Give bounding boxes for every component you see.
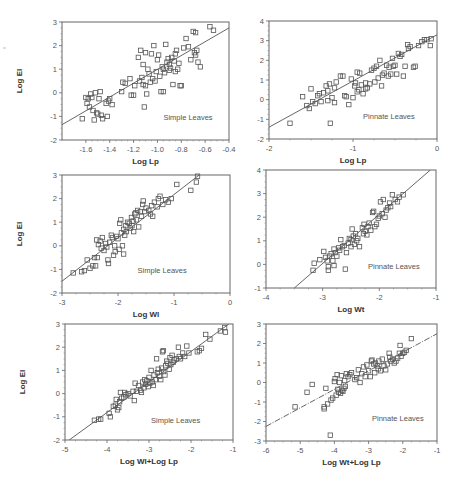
y-tick-label: 3 <box>53 171 57 180</box>
data-point-square <box>194 180 198 184</box>
figure-panel-grid: -1.6-1.4-1.2-1.0-0.8-0.6-0.4-2-10123Simp… <box>0 0 456 482</box>
data-point-square <box>128 76 132 80</box>
x-tick-label: -2 <box>188 445 195 454</box>
data-point-square <box>378 58 382 62</box>
scatter-panel-6: -6-5-4-3-2-1-3-2-10123Pinnate LeavesLog … <box>254 320 440 468</box>
data-point-square <box>379 84 383 88</box>
x-tick-label: -5 <box>297 446 304 455</box>
y-axis-label: Log EI <box>15 222 24 246</box>
data-point-square <box>185 344 189 348</box>
x-tick-label: -1.2 <box>127 145 140 154</box>
data-point-square <box>138 209 142 213</box>
data-point-square <box>332 86 336 90</box>
data-point-square <box>403 64 407 68</box>
data-point-square <box>398 343 402 347</box>
data-point-square <box>156 53 160 57</box>
data-point-square <box>223 330 227 334</box>
x-axis-label: Log Wl+Log Lp <box>120 457 178 466</box>
data-point-square <box>368 374 372 378</box>
y-tick-label: -3 <box>254 437 261 446</box>
data-point-square <box>184 36 188 40</box>
data-point-square <box>133 84 137 88</box>
data-point-square <box>310 382 314 386</box>
x-axis-label: Log Wt+Log Lp <box>322 458 381 467</box>
x-tick-label: -2 <box>399 446 406 455</box>
y-tick-label: -2 <box>50 136 57 145</box>
data-point-square <box>179 84 183 88</box>
panel-annotation: Simple Leaves <box>138 266 187 275</box>
data-point-square <box>143 50 147 54</box>
data-point-square <box>152 43 156 47</box>
y-tick-label: 1 <box>260 76 264 85</box>
data-point-square <box>339 237 343 241</box>
y-tick-label: -2 <box>254 417 261 426</box>
panel-annotation: Pinnate Leaves <box>363 112 415 121</box>
data-point-square <box>175 182 179 186</box>
panel-annotation: Pinnate Leaves <box>372 414 424 423</box>
data-point-square <box>142 105 146 109</box>
data-point-square <box>144 92 148 96</box>
x-tick-label: -1 <box>350 144 357 153</box>
data-point-square <box>288 121 292 125</box>
data-point-square <box>322 249 326 253</box>
y-tick-label: 2 <box>53 41 57 50</box>
data-point-square <box>149 52 153 56</box>
y-tick-label: 2 <box>257 213 261 222</box>
data-point-square <box>198 65 202 69</box>
y-tick-label: 1 <box>56 366 60 375</box>
x-tick-label: -2 <box>376 293 383 302</box>
y-tick-label: -1 <box>257 115 264 124</box>
y-tick-label: 1 <box>257 236 261 245</box>
data-point-square <box>324 386 328 390</box>
data-point-square <box>337 380 341 384</box>
data-point-square <box>357 245 361 249</box>
data-point-square <box>318 257 322 261</box>
x-axis-label: Log Wt <box>337 305 364 314</box>
x-tick-label: -1.6 <box>79 145 92 154</box>
data-point-square <box>189 58 193 62</box>
x-tick-label: 0 <box>228 298 232 307</box>
x-tick-label: -4 <box>263 293 270 302</box>
y-tick-label: 3 <box>260 36 264 45</box>
x-tick-label: -1 <box>171 298 178 307</box>
data-point-square <box>189 188 193 192</box>
data-point-square <box>319 99 323 103</box>
x-tick-label: -3 <box>365 446 372 455</box>
data-point-square <box>181 46 185 50</box>
y-axis-label: Log EI <box>15 69 24 93</box>
data-point-square <box>121 252 125 256</box>
data-point-square <box>321 91 325 95</box>
data-point-square <box>328 433 332 437</box>
x-tick-label: -0.8 <box>175 145 188 154</box>
data-point-square <box>359 83 363 87</box>
data-point-square <box>80 117 84 121</box>
data-point-square <box>177 61 181 65</box>
x-tick-label: -1 <box>434 446 441 455</box>
x-tick-label: -0.6 <box>199 145 212 154</box>
data-point-square <box>361 92 365 96</box>
regression-line <box>266 334 437 427</box>
x-tick-label: -3 <box>146 445 153 454</box>
x-tick-label: -2 <box>266 144 273 153</box>
data-point-square <box>428 43 432 47</box>
data-point-square <box>409 336 413 340</box>
data-point-square <box>139 48 143 52</box>
data-point-square <box>312 261 316 265</box>
y-tick-label: -2 <box>257 135 264 144</box>
y-tick-label: 2 <box>56 343 60 352</box>
data-point-square <box>139 214 143 218</box>
y-tick-label: 4 <box>257 166 261 175</box>
y-tick-label: 1 <box>53 218 57 227</box>
data-point-square <box>93 264 97 268</box>
data-point-square <box>344 250 348 254</box>
scatter-panel-2: -2-10-2-101234Pinnate LeavesLog Lp <box>257 17 439 166</box>
data-point-square <box>363 81 367 85</box>
x-tick-label: -1.0 <box>151 145 164 154</box>
plot-frame <box>62 175 230 293</box>
data-point-square <box>350 227 354 231</box>
data-point-square <box>98 89 102 93</box>
data-point-square <box>105 114 109 118</box>
data-point-square <box>158 74 162 78</box>
regression-line <box>62 28 229 125</box>
data-point-square <box>332 100 336 104</box>
